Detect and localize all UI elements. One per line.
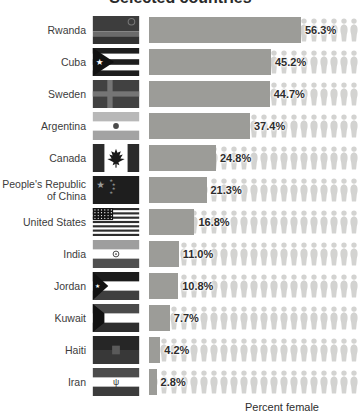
flag-iran-svg: ψ bbox=[92, 368, 140, 396]
person-icons bbox=[149, 273, 359, 299]
person-icons bbox=[149, 241, 359, 267]
flag-cuba: ★ bbox=[92, 48, 140, 76]
chart-row: United States16.8% bbox=[0, 206, 361, 238]
country-label: Argentina bbox=[0, 120, 90, 132]
pictogram-strip: 4.2% bbox=[149, 337, 359, 363]
chart-row: India11.0% bbox=[0, 238, 361, 270]
pictogram-strip: 11.0% bbox=[149, 241, 359, 267]
country-label: Iran bbox=[0, 376, 90, 388]
flag-cuba-svg: ★ bbox=[92, 48, 140, 76]
value-label: 45.2% bbox=[275, 49, 306, 75]
pictogram-strip: 37.4% bbox=[149, 113, 359, 139]
flag-canada-svg bbox=[92, 144, 140, 172]
value-label: 7.7% bbox=[174, 305, 199, 331]
flag-china-svg: ★★★★★ bbox=[92, 176, 140, 204]
value-label: 11.0% bbox=[183, 241, 214, 267]
bar bbox=[149, 17, 301, 43]
flag-sweden bbox=[92, 80, 140, 108]
bar bbox=[149, 241, 179, 267]
bar bbox=[149, 273, 178, 299]
chart-row: Canada24.8% bbox=[0, 142, 361, 174]
value-label: 24.8% bbox=[220, 145, 251, 171]
country-label: Cuba bbox=[0, 56, 90, 68]
chart-title: Selected countries bbox=[0, 0, 361, 7]
chart-row: Haiti4.2% bbox=[0, 334, 361, 366]
bar bbox=[149, 81, 270, 107]
svg-text:★: ★ bbox=[109, 190, 113, 195]
svg-text:★: ★ bbox=[96, 57, 104, 67]
value-label: 16.8% bbox=[198, 209, 229, 235]
flag-argentina-svg bbox=[92, 112, 140, 140]
pictogram-strip: 56.3% bbox=[149, 17, 359, 43]
pictogram-strip: 45.2% bbox=[149, 49, 359, 75]
flag-china: ★★★★★ bbox=[92, 176, 140, 204]
country-label: Kuwait bbox=[0, 312, 90, 324]
bar bbox=[149, 113, 250, 139]
flag-haiti bbox=[92, 336, 140, 364]
pictogram-strip: 10.8% bbox=[149, 273, 359, 299]
country-label: Sweden bbox=[0, 88, 90, 100]
svg-text:★: ★ bbox=[95, 283, 100, 289]
bar bbox=[149, 177, 207, 203]
pictogram-strip: 24.8% bbox=[149, 145, 359, 171]
flag-india-svg bbox=[92, 240, 140, 268]
chart-row: Rwanda56.3% bbox=[0, 14, 361, 46]
svg-text:★: ★ bbox=[96, 179, 105, 190]
flag-rwanda bbox=[92, 16, 140, 44]
flag-india bbox=[92, 240, 140, 268]
chart-row: Kuwait7.7% bbox=[0, 302, 361, 334]
chart-row: Cuba★45.2% bbox=[0, 46, 361, 78]
flag-rwanda-svg bbox=[92, 16, 140, 44]
value-label: 37.4% bbox=[254, 113, 285, 139]
country-label: Haiti bbox=[0, 344, 90, 356]
country-label: United States bbox=[0, 216, 90, 228]
value-label: 4.2% bbox=[164, 337, 189, 363]
flag-iran: ψ bbox=[92, 368, 140, 396]
flag-usa bbox=[92, 208, 140, 236]
bar bbox=[149, 305, 170, 331]
svg-text:ψ: ψ bbox=[113, 377, 119, 387]
bar bbox=[149, 209, 194, 235]
flag-canada bbox=[92, 144, 140, 172]
pictogram-strip: 7.7% bbox=[149, 305, 359, 331]
bar bbox=[149, 49, 271, 75]
value-label: 10.8% bbox=[182, 273, 213, 299]
country-label: India bbox=[0, 248, 90, 260]
value-label: 44.7% bbox=[274, 81, 305, 107]
flag-usa-svg bbox=[92, 208, 140, 236]
chart-row: Iranψ2.8% bbox=[0, 366, 361, 398]
chart-title-cropped: Selected countries bbox=[0, 0, 361, 9]
country-label: Rwanda bbox=[0, 24, 90, 36]
pictogram-strip: 44.7% bbox=[149, 81, 359, 107]
flag-jordan-svg: ★ bbox=[92, 272, 140, 300]
value-label: 2.8% bbox=[161, 369, 186, 395]
flag-argentina bbox=[92, 112, 140, 140]
flag-haiti-svg bbox=[92, 336, 140, 364]
bar bbox=[149, 145, 216, 171]
pictogram-strip: 2.8% bbox=[149, 369, 359, 395]
chart-row: Sweden44.7% bbox=[0, 78, 361, 110]
pictogram-strip: 16.8% bbox=[149, 209, 359, 235]
pictogram-strip: 21.3% bbox=[149, 177, 359, 203]
flag-sweden-svg bbox=[92, 80, 140, 108]
bar bbox=[149, 337, 160, 363]
country-label: People's Republic of China bbox=[0, 178, 90, 202]
flag-kuwait-svg bbox=[92, 304, 140, 332]
value-label: 56.3% bbox=[305, 17, 336, 43]
flag-kuwait bbox=[92, 304, 140, 332]
x-axis-label: Percent female bbox=[212, 401, 352, 413]
chart-row: People's Republic of China★★★★★21.3% bbox=[0, 174, 361, 206]
flag-jordan: ★ bbox=[92, 272, 140, 300]
country-label: Canada bbox=[0, 152, 90, 164]
pictogram-bar-chart: Rwanda56.3%Cuba★45.2%Sweden44.7%Argentin… bbox=[0, 14, 361, 398]
country-label: Jordan bbox=[0, 280, 90, 292]
chart-row: Jordan★10.8% bbox=[0, 270, 361, 302]
value-label: 21.3% bbox=[211, 177, 242, 203]
bar bbox=[149, 369, 157, 395]
chart-row: Argentina37.4% bbox=[0, 110, 361, 142]
